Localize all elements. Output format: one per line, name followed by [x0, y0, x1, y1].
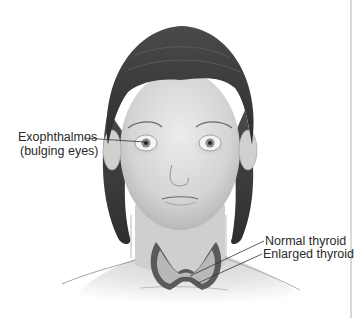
label-exophthalmos: Exophthalmos: [18, 130, 97, 144]
label-normal-thyroid: Normal thyroid: [265, 234, 346, 248]
label-enlarged-thyroid: Enlarged thyroid: [263, 247, 354, 261]
label-bulging-eyes: (bulging eyes): [20, 144, 99, 158]
frame-edge: [350, 0, 352, 318]
